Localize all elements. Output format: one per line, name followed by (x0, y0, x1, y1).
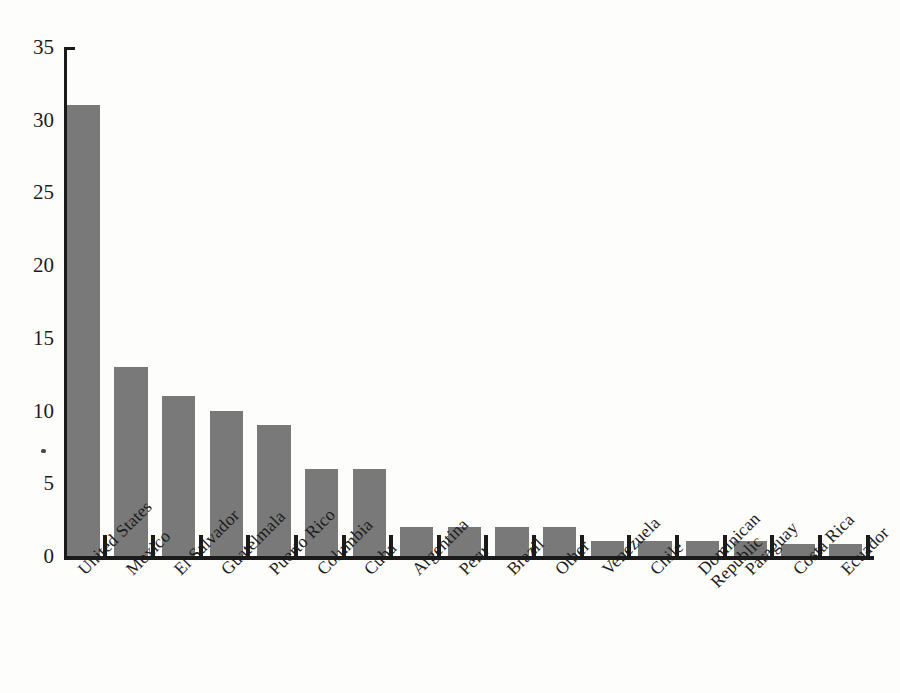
y-axis-tick-label: 20 (10, 255, 54, 276)
bar-series-group (64, 48, 874, 556)
y-axis-tick-label: 15 (10, 328, 54, 349)
y-axis-tick-label: 35 (10, 37, 54, 58)
y-axis-tick-label: 25 (10, 182, 54, 203)
y-axis-tick-label: 5 (10, 473, 54, 494)
y-axis-tick (64, 556, 75, 559)
bar (67, 105, 100, 556)
y-axis-tick-label: 0 (10, 546, 54, 567)
y-axis-tick-label: 10 (10, 401, 54, 422)
y-axis-tick-label: 30 (10, 110, 54, 131)
print-artifact-mark (41, 449, 46, 453)
bar-chart-figure: 05101520253035 United StatesMexicoEl Sal… (0, 0, 900, 693)
